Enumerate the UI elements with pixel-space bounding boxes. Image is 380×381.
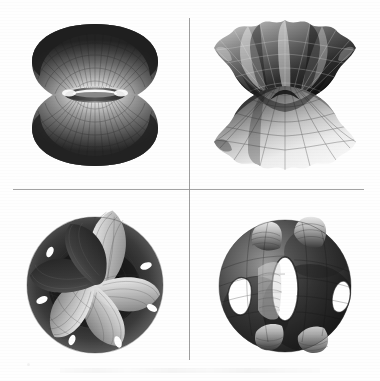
scan-speck xyxy=(27,363,30,366)
panel-top-right xyxy=(190,0,380,190)
panel-bottom-left xyxy=(0,190,190,380)
figure-root: catenoid-like-surface fluted-wavy-cateno… xyxy=(0,0,380,381)
handle-lobe xyxy=(252,222,282,251)
bottom-caption-smudge xyxy=(60,368,320,373)
six-lobed-rosette-surface xyxy=(0,190,190,380)
panel-bottom-right xyxy=(190,190,380,380)
lower-wavy-flare xyxy=(214,86,356,170)
panel-top-left xyxy=(0,0,190,190)
divider-vertical xyxy=(189,18,190,360)
tube-highlight xyxy=(258,262,281,320)
catenoid-like-surface xyxy=(0,0,190,190)
fluted-wavy-catenoid-surface xyxy=(190,0,380,190)
genus-three-handled-surface xyxy=(190,190,380,380)
